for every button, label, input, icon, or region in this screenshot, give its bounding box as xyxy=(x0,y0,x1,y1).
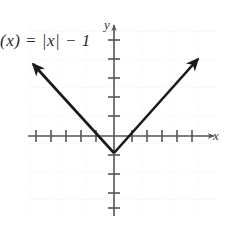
graph-figure: (x) = |x| − 1 x y xyxy=(0,0,235,231)
y-axis-label: y xyxy=(104,17,110,33)
x-axis-label: x xyxy=(213,128,219,144)
function-equation-label: (x) = |x| − 1 xyxy=(0,28,112,54)
